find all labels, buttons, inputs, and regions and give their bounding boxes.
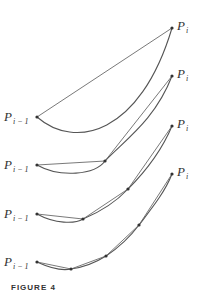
label-p-i-minus-1: Pi − 1 — [4, 110, 29, 126]
sample-point — [81, 217, 84, 220]
label-p-i: Pi — [177, 67, 188, 83]
curve — [37, 76, 172, 173]
panel-one-segment — [35, 26, 173, 132]
chord-polyline — [37, 28, 172, 117]
sample-point — [170, 172, 173, 175]
sample-point — [170, 26, 173, 29]
sample-point — [170, 124, 173, 127]
chord-polyline — [37, 76, 172, 165]
sample-point — [35, 163, 38, 166]
sample-point — [35, 115, 38, 118]
label-p-i-minus-1: Pi − 1 — [4, 255, 29, 271]
sample-point — [170, 74, 173, 77]
curve — [37, 28, 172, 133]
figure-caption: FIGURE 4 — [11, 283, 56, 292]
sample-point — [104, 254, 107, 257]
panel-two-segments — [35, 74, 173, 173]
label-p-i: Pi — [177, 165, 188, 181]
label-p-i-minus-1: Pi − 1 — [4, 207, 29, 223]
sample-point — [35, 260, 38, 263]
label-p-i: Pi — [177, 117, 188, 133]
label-p-i-minus-1: Pi − 1 — [4, 158, 29, 174]
sample-point — [69, 267, 72, 270]
label-p-i: Pi — [177, 19, 188, 35]
sample-point — [126, 187, 129, 190]
sample-point — [137, 223, 140, 226]
sample-point — [103, 159, 106, 162]
sample-point — [35, 212, 38, 215]
